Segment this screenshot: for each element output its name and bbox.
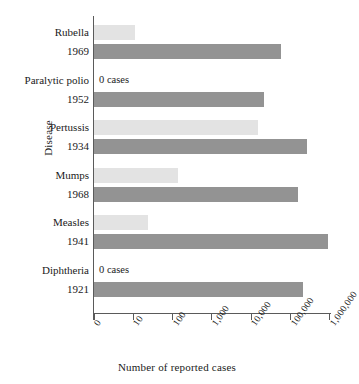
category-label-rubella: Rubella — [0, 26, 94, 38]
bar-peak-1941 — [94, 234, 328, 249]
year-label-1952: 1952 — [0, 93, 94, 105]
x-tick-label-3: 1,000 — [210, 304, 231, 328]
x-tick-label-0: 0 — [92, 318, 103, 328]
year-label-1969: 1969 — [0, 45, 94, 57]
year-label-1968: 1968 — [0, 188, 94, 200]
year-label-1941: 1941 — [0, 235, 94, 247]
bar-recent-rubella — [94, 25, 135, 40]
bar-peak-1921 — [94, 282, 303, 297]
category-label-diphtheria: Diphtheria — [0, 264, 94, 276]
category-label-pertussis: Pertussis — [0, 121, 94, 133]
bar-recent-mumps — [94, 168, 178, 183]
category-label-paralytic-polio: Paralytic polio — [0, 74, 94, 86]
category-label-mumps: Mumps — [0, 169, 94, 181]
bar-recent-pertussis — [94, 120, 258, 135]
bar-peak-1968 — [94, 187, 298, 202]
zero-cases-note-diphtheria: 0 cases — [99, 264, 129, 275]
zero-cases-note-paralytic-polio: 0 cases — [99, 74, 129, 85]
x-tick-label-6: 1,000,000 — [328, 289, 359, 327]
bar-peak-1969 — [94, 44, 281, 59]
category-label-measles: Measles — [0, 216, 94, 228]
y-axis-title: Disease — [42, 98, 54, 178]
x-tick-label-5: 100,000 — [289, 296, 316, 328]
year-label-1921: 1921 — [0, 283, 94, 295]
x-axis-title: Number of reported cases — [0, 361, 354, 373]
year-label-1934: 1934 — [0, 140, 94, 152]
bar-peak-1952 — [94, 92, 264, 107]
bar-recent-measles — [94, 215, 148, 230]
bar-peak-1934 — [94, 139, 307, 154]
